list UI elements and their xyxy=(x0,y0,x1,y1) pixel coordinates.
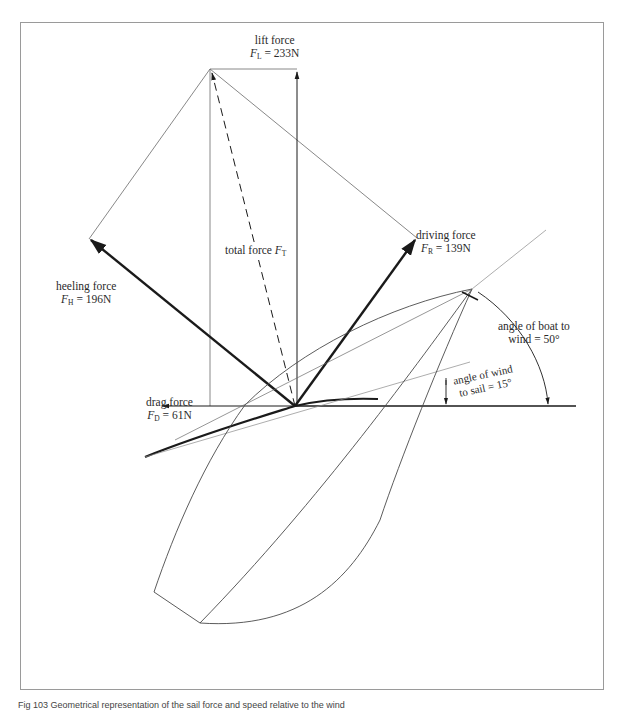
heeling-driving-parallelogram xyxy=(89,69,417,239)
total-force-name: total force xyxy=(225,244,272,256)
force-diagram xyxy=(0,0,620,711)
driving-force-label: driving force FR = 139N xyxy=(416,229,476,258)
lift-force-label: lift force FL = 233N xyxy=(250,34,299,63)
boat-heading-line xyxy=(472,230,546,289)
angle-boat-wind-line1: angle of boat to xyxy=(498,320,570,333)
driving-force-value: = 139N xyxy=(436,242,471,254)
driving-symbol: F xyxy=(421,242,428,254)
heeling-sub: H xyxy=(68,298,73,307)
lift-force-value-line: FL = 233N xyxy=(250,47,299,63)
total-sub: T xyxy=(282,249,287,258)
driving-sub: R xyxy=(428,247,433,256)
drag-sub: D xyxy=(154,414,159,423)
heeling-force-arrow xyxy=(91,240,295,406)
heeling-force-value-line: FH = 196N xyxy=(56,293,116,309)
lift-force-value: = 233N xyxy=(265,47,300,59)
lift-force-name: lift force xyxy=(250,34,299,47)
heeling-force-value: = 196N xyxy=(76,293,111,305)
heeling-force-name: heeling force xyxy=(56,280,116,293)
lift-symbol: F xyxy=(250,47,257,59)
drag-force-name: drag force xyxy=(146,396,193,409)
drag-force-value: = 61N xyxy=(163,409,192,421)
lift-sub: L xyxy=(257,52,262,61)
driving-force-name: driving force xyxy=(416,229,476,242)
drag-force-value-line: FD = 61N xyxy=(146,409,193,425)
drag-force-label: drag force FD = 61N xyxy=(146,396,193,425)
heeling-force-label: heeling force FH = 196N xyxy=(56,280,116,309)
total-force-arrow xyxy=(212,73,295,406)
figure-caption: Fig 103 Geometrical representation of th… xyxy=(18,700,345,710)
angle-boat-wind-label: angle of boat to wind = 50° xyxy=(498,320,570,346)
boat-hull xyxy=(154,289,472,623)
boat-centreline xyxy=(175,289,472,440)
total-symbol: F xyxy=(275,244,282,256)
driving-force-arrow xyxy=(295,240,415,406)
angle-boat-wind-line2: wind = 50° xyxy=(498,333,570,346)
driving-force-value-line: FR = 139N xyxy=(416,242,476,258)
total-force-label: total force FT xyxy=(223,244,288,260)
